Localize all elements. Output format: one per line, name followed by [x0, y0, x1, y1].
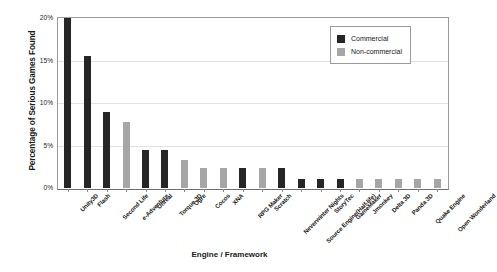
bar	[278, 168, 285, 188]
x-axis-category-label: Unreal	[155, 192, 173, 210]
y-axis-tick-label: 15%	[27, 56, 53, 63]
x-axis-category-label: Panda 3D	[410, 192, 434, 216]
x-axis-category-label: Flash	[96, 192, 112, 208]
bar	[161, 150, 168, 188]
bar	[142, 150, 149, 188]
legend-item-label: Non-commercial	[351, 48, 402, 55]
legend-item: Commercial	[337, 32, 402, 45]
bar	[123, 122, 130, 188]
x-axis-category-label: Quake Engine	[433, 192, 466, 225]
legend-item: Non-commercial	[337, 45, 402, 58]
bar	[181, 160, 188, 188]
chart-legend: CommercialNon-commercial	[330, 26, 411, 64]
bar	[84, 56, 91, 188]
legend-swatch-icon	[337, 35, 345, 43]
x-axis-category-label: XNA	[231, 192, 245, 206]
y-axis-tick-labels: 0%5%10%15%20%	[25, 17, 53, 188]
bar	[434, 179, 441, 188]
y-axis-tick-label: 5%	[27, 141, 53, 148]
bar	[356, 179, 363, 188]
x-axis-category-labels: Unity3DFlashSecond Lifee-AdventureUnreal…	[58, 192, 447, 252]
legend-swatch-icon	[337, 48, 345, 56]
y-axis-tick-label: 10%	[27, 99, 53, 106]
bar	[375, 179, 382, 188]
bar	[239, 168, 246, 188]
bar	[414, 179, 421, 188]
bar	[64, 18, 71, 188]
bar	[220, 168, 227, 188]
bar	[298, 179, 305, 188]
x-axis-category-label: Cocos	[213, 192, 231, 210]
bar	[200, 168, 207, 188]
bar	[395, 179, 402, 188]
y-axis-tick-label: 0%	[27, 184, 53, 191]
bar	[337, 179, 344, 188]
bar	[317, 179, 324, 188]
legend-item-label: Commercial	[351, 35, 388, 42]
x-axis-title: Engine / Framework	[0, 250, 459, 259]
bar	[259, 168, 266, 188]
y-axis-tick-label: 20%	[27, 14, 53, 21]
bar	[103, 112, 110, 189]
